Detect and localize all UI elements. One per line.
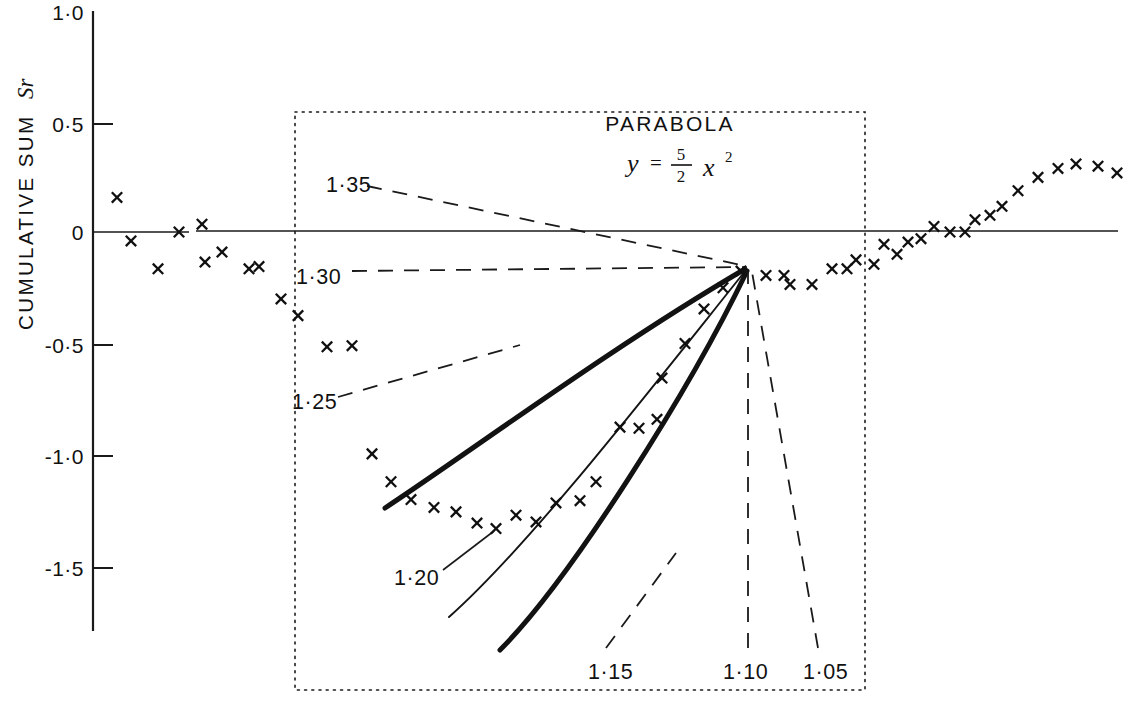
parabola-annotation-box: [295, 112, 865, 690]
curve-1.15: [500, 271, 747, 650]
data-point-marker: [551, 498, 561, 508]
data-point-marker: [367, 449, 377, 459]
data-point-marker: [429, 502, 439, 512]
data-point-marker: [761, 270, 771, 280]
equation-lhs: y: [624, 149, 639, 178]
cumulative-sum-chart: 1·0 0·5 0 -0·5 -1·0 -1·5 CUMULATIVE SUM …: [0, 0, 1143, 707]
data-point-marker: [322, 342, 332, 352]
curve-1.25-leader: [338, 345, 520, 397]
data-point-marker: [126, 236, 136, 246]
data-point-marker: [406, 494, 416, 504]
data-point-marker: [985, 210, 995, 220]
data-point-marker: [652, 414, 662, 424]
curve-label-1.15: 1·15: [588, 660, 633, 684]
data-point-marker: [807, 279, 817, 289]
data-point-marker: [916, 233, 926, 243]
data-point-marker: [827, 264, 837, 274]
data-point-marker: [254, 261, 264, 271]
data-point-group: [112, 159, 1122, 534]
y-tick-label-neg1.5: -1·5: [45, 557, 84, 580]
data-point-marker: [112, 192, 122, 202]
data-point-marker: [1053, 163, 1063, 173]
data-point-marker: [491, 523, 501, 533]
data-point-marker: [591, 477, 601, 487]
data-point-marker: [1033, 172, 1043, 182]
data-point-marker: [970, 215, 980, 225]
curve-label-1.30: 1·30: [296, 265, 341, 289]
data-point-marker: [1071, 159, 1081, 169]
equation-numerator: 5: [677, 145, 686, 164]
equation-variable: x: [702, 153, 715, 182]
curve-1.15-leader: [606, 553, 676, 648]
parabola-equation: y = 5 2 x 2: [624, 145, 733, 186]
equation-exponent: 2: [725, 149, 733, 165]
data-point-marker: [929, 221, 939, 231]
data-point-marker: [200, 257, 210, 267]
curve-1.20-leader: [443, 531, 494, 570]
y-tick-label-1.0: 1·0: [52, 1, 84, 24]
data-point-marker: [615, 422, 625, 432]
data-point-marker: [903, 237, 913, 247]
data-point-marker: [699, 304, 709, 314]
curve-label-1.25: 1·25: [292, 390, 337, 414]
data-point-marker: [945, 227, 955, 237]
curve-label-1.35: 1·35: [326, 173, 371, 197]
figure-container: 1·0 0·5 0 -0·5 -1·0 -1·5 CUMULATIVE SUM …: [0, 0, 1143, 707]
y-tick-label-neg0.5: -0·5: [45, 334, 84, 357]
equation-equals: =: [650, 151, 662, 175]
data-point-marker: [1112, 168, 1122, 178]
data-point-marker: [851, 255, 861, 265]
data-point-marker: [879, 239, 889, 249]
data-point-marker: [472, 518, 482, 528]
y-tick-label-neg1.0: -1·0: [45, 445, 84, 468]
data-point-marker: [244, 264, 254, 274]
data-point-marker: [293, 310, 303, 320]
y-axis-title-symbol: Sr: [13, 78, 38, 100]
y-tick-label-0: 0: [72, 221, 84, 244]
data-point-marker: [960, 227, 970, 237]
curve-1.25: [385, 269, 745, 508]
data-point-marker: [575, 496, 585, 506]
curve-label-1.10: 1·10: [723, 660, 768, 684]
data-point-marker: [1093, 161, 1103, 171]
equation-denominator: 2: [677, 167, 686, 186]
data-point-marker: [634, 423, 644, 433]
data-point-marker: [997, 201, 1007, 211]
data-point-marker: [869, 259, 879, 269]
data-point-marker: [842, 264, 852, 274]
data-point-marker: [153, 264, 163, 274]
curve-label-1.05: 1·05: [803, 660, 848, 684]
data-point-marker: [347, 341, 357, 351]
data-point-marker: [785, 279, 795, 289]
data-point-marker: [276, 294, 286, 304]
parabola-title: PARABOLA: [605, 112, 734, 135]
data-point-marker: [451, 507, 461, 517]
data-point-marker: [892, 249, 902, 259]
data-point-marker: [217, 247, 227, 257]
curve-1.05-leader: [752, 272, 818, 648]
data-point-marker: [386, 477, 396, 487]
y-tick-label-0.5: 0·5: [52, 113, 84, 136]
data-point-marker: [779, 270, 789, 280]
y-axis-title: CUMULATIVE SUM: [14, 115, 37, 330]
data-point-marker: [1013, 186, 1023, 196]
curve-label-1.20: 1·20: [394, 566, 439, 590]
data-point-marker: [197, 219, 207, 229]
curve-1.30-leader: [352, 267, 745, 271]
data-point-marker: [511, 510, 521, 520]
curve-1.20: [449, 270, 746, 617]
curve-1.35-leader: [367, 186, 746, 266]
